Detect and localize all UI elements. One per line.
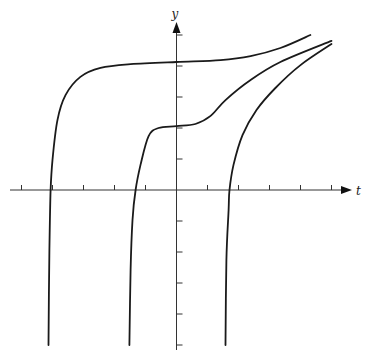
chart: t y (0, 0, 365, 358)
y-axis-arrowhead-icon (173, 22, 181, 33)
solution-curve-3 (226, 44, 332, 345)
t-axis-label: t (356, 184, 361, 198)
solution-curve-2 (129, 41, 331, 345)
t-axis-arrowhead-icon (341, 186, 352, 194)
y-axis-label: y (171, 7, 179, 21)
